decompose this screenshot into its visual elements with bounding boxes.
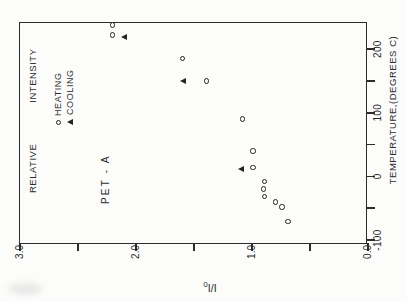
- heating-data-point: [261, 186, 266, 191]
- legend-item-cooling: COOLING: [64, 69, 76, 125]
- filled-triangle-icon: [67, 119, 73, 125]
- y-axis-tick-label: 3.0: [14, 245, 26, 282]
- legend-item-heating: HEATING: [52, 72, 64, 125]
- cooling-data-point: [180, 78, 186, 84]
- heating-data-point: [250, 165, 255, 170]
- y-axis-title-subscript: 0: [203, 280, 207, 289]
- plot-frame: [19, 22, 367, 244]
- y-axis-tick: [193, 243, 195, 251]
- legend-title: RELATIVE INTENSITY: [27, 49, 38, 193]
- heating-data-point: [285, 219, 290, 224]
- heating-data-point: [250, 148, 255, 153]
- y-axis-title: I/I0: [188, 280, 232, 294]
- y-axis-tick: [77, 243, 79, 251]
- heating-data-point: [273, 199, 278, 204]
- cooling-data-point: [238, 166, 244, 172]
- y-axis-tick-label: 1.0: [246, 245, 258, 282]
- sample-label: PET - A: [100, 154, 111, 204]
- x-axis-tick: [367, 80, 375, 82]
- legend-cooling-label: COOLING: [65, 69, 75, 115]
- scan-smudge: [8, 283, 42, 295]
- y-axis-tick: [309, 243, 311, 251]
- y-axis-tick-label: 0.0: [362, 245, 374, 282]
- y-axis-tick-label: 2.0: [130, 245, 142, 282]
- x-axis-tick-label: 200: [372, 31, 384, 67]
- y-axis-title-main: I/I: [208, 282, 217, 294]
- x-axis-title: TEMPERATURE,(DEGREES C): [387, 22, 398, 198]
- x-axis-tick: [367, 144, 375, 146]
- figure-scan: RELATIVE INTENSITY HEATING COOLING PET -…: [0, 0, 407, 302]
- legend-heating-label: HEATING: [53, 72, 63, 116]
- x-axis-tick-label: 0: [372, 158, 384, 194]
- heating-data-point: [279, 204, 284, 209]
- scatter-chart: RELATIVE INTENSITY HEATING COOLING PET -…: [0, 0, 407, 302]
- open-circle-icon: [56, 120, 61, 125]
- cooling-data-point: [121, 34, 127, 40]
- x-axis-tick-label: 100: [372, 95, 384, 131]
- x-axis-tick: [367, 207, 375, 209]
